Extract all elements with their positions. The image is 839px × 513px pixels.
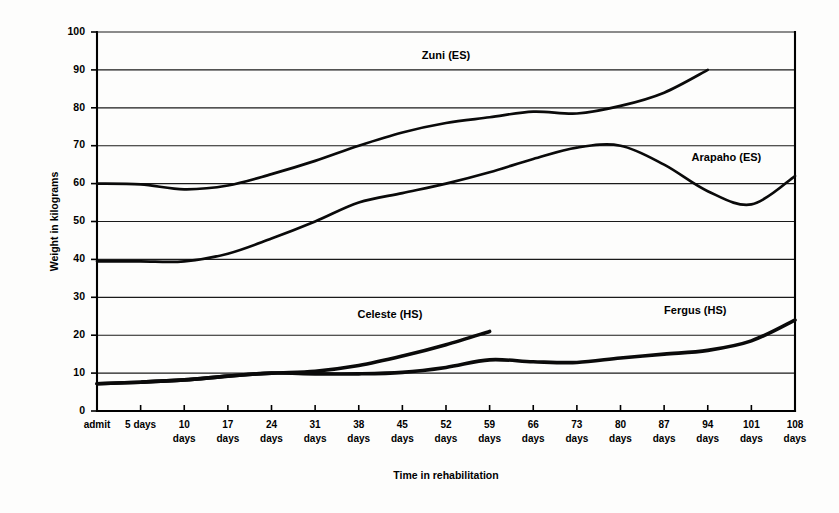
x-axis-title: Time in rehabilitation xyxy=(393,469,498,481)
y-axis-title: Weight in kilograms xyxy=(48,172,60,272)
y-axis-label-40: 40 xyxy=(73,252,85,264)
weight-rehabilitation-line-chart: 0102030405060708090100 admit5 days10days… xyxy=(0,0,839,513)
gridlines xyxy=(97,70,795,373)
x-axis-label-13: 87days xyxy=(653,419,676,444)
x-axis-label-8: 52days xyxy=(435,419,458,444)
x-axis-label-4: 24days xyxy=(260,419,283,444)
x-axis-label-6: 38days xyxy=(347,419,370,444)
data-series-lines xyxy=(97,70,795,384)
series-line-fergus-hs xyxy=(97,320,795,384)
series-label-arapaho-es: Arapaho (ES) xyxy=(692,151,762,163)
x-axis-label-9: 59days xyxy=(478,419,501,444)
y-axis-label-10: 10 xyxy=(73,366,85,378)
series-label-celeste-hs: Celeste (HS) xyxy=(358,308,423,320)
x-axis-label-16: 108days xyxy=(784,419,807,444)
x-axis-label-0: admit xyxy=(84,419,111,430)
x-axis-tick-labels: admit5 days10days17days24days31days38day… xyxy=(84,419,807,444)
series-inline-labels: Zuni (ES)Arapaho (ES)Celeste (HS)Fergus … xyxy=(358,49,762,321)
y-axis-label-90: 90 xyxy=(73,63,85,75)
series-label-zuni-es: Zuni (ES) xyxy=(422,49,471,61)
x-axis-label-5: 31days xyxy=(304,419,327,444)
chart-container: 0102030405060708090100 admit5 days10days… xyxy=(0,0,839,513)
series-line-arapaho-es xyxy=(97,144,795,261)
y-axis-label-50: 50 xyxy=(73,214,85,226)
series-line-celeste-hs xyxy=(97,331,490,383)
y-axis-label-100: 100 xyxy=(67,25,85,37)
y-axis-label-60: 60 xyxy=(73,176,85,188)
y-axis-label-80: 80 xyxy=(73,101,85,113)
x-axis-label-12: 80days xyxy=(609,419,632,444)
x-axis-label-1: 5 days xyxy=(125,419,157,430)
series-label-fergus-hs: Fergus (HS) xyxy=(664,304,727,316)
y-axis-label-20: 20 xyxy=(73,328,85,340)
y-axis-label-30: 30 xyxy=(73,290,85,302)
x-axis-label-14: 94days xyxy=(696,419,719,444)
y-axis-label-0: 0 xyxy=(79,404,85,416)
x-axis-label-10: 66days xyxy=(522,419,545,444)
series-line-zuni-es xyxy=(97,70,708,189)
x-axis-label-3: 17days xyxy=(216,419,239,444)
y-axis-label-70: 70 xyxy=(73,138,85,150)
x-axis-label-11: 73days xyxy=(565,419,588,444)
y-axis-tick-labels: 0102030405060708090100 xyxy=(67,25,85,416)
x-axis-label-15: 101days xyxy=(740,419,763,444)
x-axis-label-7: 45days xyxy=(391,419,414,444)
x-axis-label-2: 10days xyxy=(173,419,196,444)
